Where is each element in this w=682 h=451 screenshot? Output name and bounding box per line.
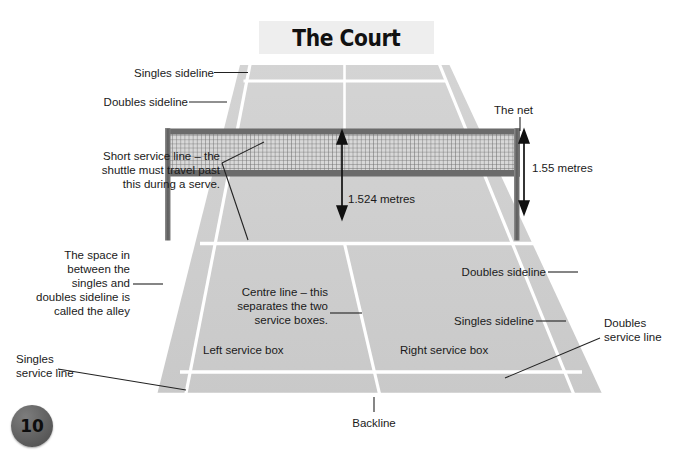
label-short-service-line: Short service line – the shuttle must tr…	[16, 149, 220, 191]
label-backline: Backline	[329, 416, 419, 430]
label-doubles-sideline-top: Doubles sideline	[28, 95, 188, 109]
page-title: The Court	[293, 25, 401, 51]
label-the-net: The net	[494, 103, 584, 117]
label-doubles-service-line: Doubles service line	[604, 316, 682, 344]
net-post-right	[514, 129, 520, 241]
label-singles-sideline-top: Singles sideline	[48, 66, 214, 80]
title-banner: The Court	[259, 21, 434, 54]
label-singles-sideline-right: Singles sideline	[420, 314, 534, 328]
label-right-service-box: Right service box	[400, 343, 530, 357]
cut-off-header-text	[18, 0, 21, 6]
label-alley: The space in between the singles and dou…	[12, 248, 130, 318]
label-post-height: 1.55 metres	[532, 161, 642, 175]
page-number-badge: 10	[11, 405, 53, 447]
label-singles-service-line: Singles service line	[16, 352, 126, 380]
page-number: 10	[20, 416, 44, 436]
court-diagram-page: The Court Singles sideline Doubles sidel…	[0, 0, 682, 451]
label-left-service-box: Left service box	[203, 343, 323, 357]
label-centre-line: Centre line – this separates the two ser…	[218, 285, 328, 327]
label-centre-net-height: 1.524 metres	[348, 192, 468, 206]
label-doubles-sideline-right: Doubles sideline	[428, 265, 546, 279]
